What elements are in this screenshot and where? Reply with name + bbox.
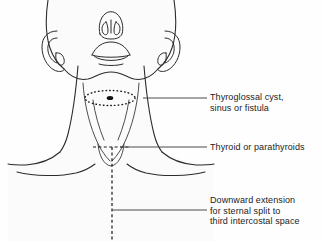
- thyroglossal-cyst-label-line1: Thyroglossal cyst,: [210, 92, 284, 103]
- body-silhouette-group: [8, 0, 214, 241]
- thyroglossal-cyst-label: Thyroglossal cyst, sinus or fistula: [210, 92, 284, 113]
- thyroid-parathyroids-label: Thyroid or parathyroids: [210, 142, 305, 153]
- chest-shape: [8, 134, 214, 241]
- sternal-split-label-line1: Downward extension: [210, 195, 300, 206]
- thyroid-parathyroids-label-line1: Thyroid or parathyroids: [210, 142, 305, 153]
- cyst-center-marker: [107, 96, 114, 100]
- sternal-split-label: Downward extension for sternal split to …: [210, 195, 300, 227]
- thyroglossal-cyst-label-line2: sinus or fistula: [210, 103, 284, 114]
- sternal-split-label-line2: for sternal split to: [210, 206, 300, 217]
- sternal-split-label-line3: third intercostal space: [210, 216, 300, 227]
- anatomy-figure-page: Thyroglossal cyst, sinus or fistula Thyr…: [0, 0, 322, 241]
